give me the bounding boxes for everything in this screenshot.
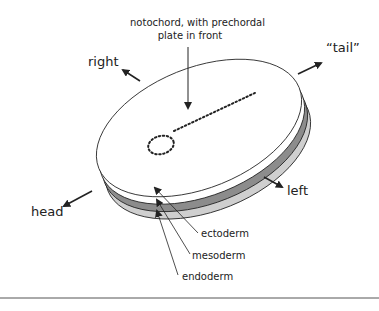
notochord-label-line2: plate in front [130,29,250,42]
mesoderm-label: mesoderm [192,250,245,261]
embryo-disc-diagram [0,0,379,311]
endoderm-pointer [157,211,178,275]
endoderm-label: endoderm [182,271,233,282]
ectoderm-label: ectoderm [201,228,249,239]
right-arrow-icon [123,70,140,81]
left-label: left [287,183,308,198]
notochord-label-line1: notochord, with prechordal [130,16,250,29]
head-label: head [31,204,63,219]
head-arrow-icon [64,191,92,206]
tail-arrow-icon [298,63,321,74]
tail-label: “tail” [326,40,360,55]
right-label: right [88,54,119,69]
notochord-label: notochord, with prechordal plate in fron… [130,16,250,42]
